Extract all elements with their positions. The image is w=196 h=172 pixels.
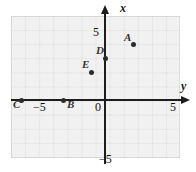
data-point-a-label: A	[124, 32, 131, 43]
x-axis-arrow	[181, 96, 190, 104]
x-tick-zero: 0	[95, 101, 101, 113]
y-tick-5: 5	[93, 26, 99, 38]
x-axis-name: x	[120, 2, 126, 14]
data-point-c-label: C	[13, 99, 20, 110]
x-tick-5: 5	[170, 101, 176, 113]
data-point-d	[103, 56, 108, 61]
coordinate-plane: y x −5 0 5 5 −5 A B C D E	[0, 0, 196, 172]
y-tick-minus5: −5	[99, 153, 112, 165]
data-point-b	[61, 98, 66, 103]
data-point-d-label: D	[96, 45, 104, 56]
y-axis-name: y	[181, 80, 186, 92]
data-point-e-label: E	[82, 59, 89, 70]
data-point-b-label: B	[67, 99, 74, 110]
x-tick-minus5: −5	[33, 101, 46, 113]
data-point-e	[89, 70, 94, 75]
y-axis-arrow	[101, 5, 109, 14]
